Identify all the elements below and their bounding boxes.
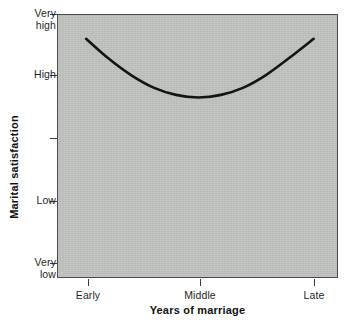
data-curve-svg (58, 15, 339, 279)
y-axis-title: Marital satisfaction (8, 87, 20, 247)
chart-figure: Marital satisfaction Very high High Low … (0, 0, 354, 333)
x-tick-label-late: Late (274, 289, 354, 301)
y-tick-label-very-high: Very high (35, 8, 56, 31)
x-tick-mark-late (314, 279, 315, 286)
x-tick-mark-early (88, 279, 89, 286)
x-tick-label-middle: Middle (160, 289, 240, 301)
y-tick-label-high: High (34, 69, 56, 81)
y-tick-mark-middle (50, 138, 57, 139)
x-axis-title: Years of marriage (57, 304, 338, 316)
x-tick-label-early: Early (48, 289, 128, 301)
y-tick-label-very-low: Very low (35, 257, 56, 280)
x-tick-mark-middle (200, 279, 201, 286)
y-tick-label-low: Low (36, 195, 56, 207)
plot-area (57, 14, 338, 278)
satisfaction-curve-path (86, 39, 314, 98)
